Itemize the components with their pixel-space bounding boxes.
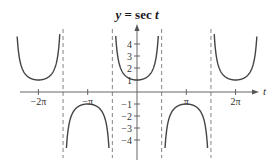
y-axis-arrow-icon — [135, 24, 140, 31]
y-tick-label: 2 — [127, 63, 132, 74]
x-axis-label: t — [263, 85, 267, 97]
chart-title: y = sec t — [113, 7, 159, 22]
secant-branch — [214, 34, 257, 80]
y-tick-label: 3 — [127, 51, 132, 62]
secant-branch — [66, 104, 109, 148]
x-tick-label: 2π — [231, 96, 241, 107]
y-tick-label: 1 — [127, 75, 132, 86]
secant-chart: y = sec t t −2π−ππ2π 4321−1−2−3−4 — [0, 0, 278, 168]
secant-branch — [17, 34, 60, 80]
x-tick-label: −2π — [31, 96, 47, 107]
y-tick-label: −2 — [121, 111, 132, 122]
x-tick-label: π — [184, 96, 189, 107]
x-axis-arrow-icon — [252, 90, 259, 95]
y-tick-label: −1 — [121, 99, 132, 110]
secant-branch — [165, 104, 208, 148]
x-tick-label: −π — [82, 96, 93, 107]
y-tick-label: −3 — [121, 123, 132, 134]
y-tick-label: 4 — [127, 39, 132, 50]
y-tick-label: −4 — [121, 135, 132, 146]
